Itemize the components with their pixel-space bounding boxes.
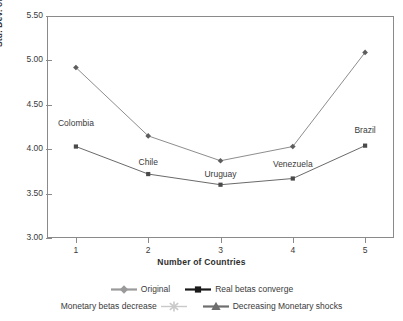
annotation-uruguay: Uruguay [204, 169, 236, 179]
x-tick-mark [221, 238, 222, 243]
x-tick-label: 1 [66, 245, 86, 255]
x-tick-mark [293, 238, 294, 243]
annotation-chile: Chile [139, 157, 158, 167]
y-tick-label: 5.50 [26, 10, 43, 20]
y-tick-mark [46, 149, 52, 150]
legend-item-original[interactable]: Original [110, 284, 170, 295]
legend-item-real-betas-converge[interactable]: Real betas converge [184, 284, 293, 295]
annotation-brazil: Brazil [354, 125, 375, 135]
x-tick-mark [365, 238, 366, 243]
diamond-marker [120, 285, 128, 293]
square-marker [195, 286, 201, 292]
y-tick-mark [46, 60, 52, 61]
asterisk-legend-icon [160, 301, 188, 312]
y-axis-title: Std. Dev. of GDP [0, 0, 4, 92]
legend-label: Monetary betas decrease [61, 301, 157, 312]
legend-row-primary: OriginalReal betas converge [0, 281, 403, 298]
triangle-legend-icon [202, 301, 230, 312]
y-tick-label: 3.50 [26, 188, 43, 198]
y-tick-mark [46, 16, 52, 17]
legend-item-monetary-betas-decrease[interactable]: Monetary betas decrease [61, 301, 188, 312]
x-tick-label: 2 [138, 245, 158, 255]
y-tick-label: 4.00 [26, 143, 43, 153]
annotation-venezuela: Venezuela [273, 159, 313, 169]
y-tick-label: 4.50 [26, 99, 43, 109]
y-tick-mark [46, 194, 52, 195]
y-tick-mark [46, 105, 52, 106]
legend-label: Decreasing Monetary shocks [233, 301, 343, 312]
square-legend-icon [184, 284, 212, 295]
legend-label: Real betas converge [215, 284, 293, 295]
legend-label: Original [141, 284, 170, 295]
x-tick-label: 3 [211, 245, 231, 255]
y-tick-label: 3.00 [26, 232, 43, 242]
legend-row-secondary: Monetary betas decreaseDecreasing Moneta… [0, 298, 403, 315]
x-tick-label: 5 [355, 245, 375, 255]
y-tick-mark [46, 238, 52, 239]
annotation-colombia: Colombia [58, 118, 94, 128]
x-axis-title: Number of Countries [0, 257, 403, 267]
diamond-legend-icon [110, 284, 138, 295]
plot-area [47, 16, 394, 238]
x-tick-mark [148, 238, 149, 243]
x-tick-mark [76, 238, 77, 243]
chart-legend: OriginalReal betas converge Monetary bet… [0, 281, 403, 315]
chart-figure: Std. Dev. of GDP 3.003.504.004.505.005.5… [0, 0, 403, 321]
legend-item-decreasing-monetary-shocks[interactable]: Decreasing Monetary shocks [202, 301, 343, 312]
x-tick-label: 4 [283, 245, 303, 255]
y-tick-label: 5.00 [26, 54, 43, 64]
